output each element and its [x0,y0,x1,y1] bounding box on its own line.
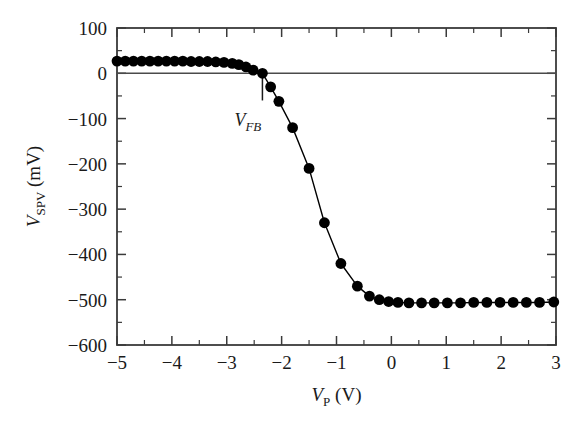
x-tick-label: −5 [107,352,127,373]
data-point [455,297,466,308]
spv-vs-vp-chart: −5−4−3−2−10123 −600−500−400−300−200−1000… [0,0,587,423]
data-point [287,122,298,133]
data-point [416,297,427,308]
data-point [468,297,479,308]
y-tick-label: 0 [98,63,108,84]
data-point [352,281,363,292]
data-point [257,68,268,79]
data-point [495,297,506,308]
y-tick-label: 100 [79,18,108,39]
x-tick-label: 0 [387,352,397,373]
chart-canvas: −5−4−3−2−10123 −600−500−400−300−200−1000… [0,0,587,423]
y-tick-label: −400 [68,244,107,265]
data-point [248,65,259,76]
x-tick-label: 1 [442,352,452,373]
data-point [429,297,440,308]
y-tick-label: −500 [68,290,107,311]
y-tick-label: −300 [68,199,107,220]
y-tick-label: −200 [68,154,107,175]
x-tick-label: −2 [272,352,292,373]
data-point [442,297,453,308]
y-tick-label: −600 [68,335,107,356]
data-point [383,296,394,307]
data-point [335,258,346,269]
x-tick-label: −1 [326,352,346,373]
x-tick-label: 3 [551,352,561,373]
data-point [374,294,385,305]
x-tick-label: 2 [496,352,506,373]
data-point [393,297,404,308]
data-point [304,163,315,174]
data-point [508,297,519,308]
data-point [548,297,559,308]
data-point [521,297,532,308]
data-point [481,297,492,308]
data-point [534,297,545,308]
data-point [273,96,284,107]
data-point [265,81,276,92]
data-point [319,217,330,228]
y-tick-label: −100 [68,109,107,130]
data-point [404,297,415,308]
x-tick-label: −3 [217,352,237,373]
data-point [364,291,375,302]
x-tick-label: −4 [162,352,183,373]
